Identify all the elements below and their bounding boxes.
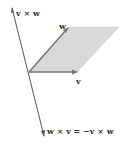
arrowhead-v-cross-w [11,7,14,13]
arrowhead-w-cross-v [41,130,45,137]
parallelogram [29,27,119,72]
label-v: v [76,77,81,85]
label-v-cross-w: v × w [16,9,40,17]
label-w: w [59,22,66,30]
label-w-cross-v: w × v = −v × w [47,127,114,135]
